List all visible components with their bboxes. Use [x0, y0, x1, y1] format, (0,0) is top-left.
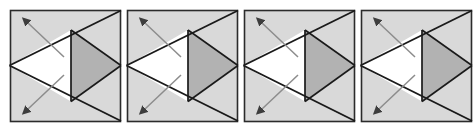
panel-drawing: [9, 9, 122, 123]
panel-4: [360, 9, 473, 123]
panel-3: [243, 9, 356, 123]
panel-drawing: [360, 9, 473, 123]
panel-drawing: [126, 9, 239, 123]
panel-drawing: [243, 9, 356, 123]
panel-1: [9, 9, 122, 123]
panel-2: [126, 9, 239, 123]
